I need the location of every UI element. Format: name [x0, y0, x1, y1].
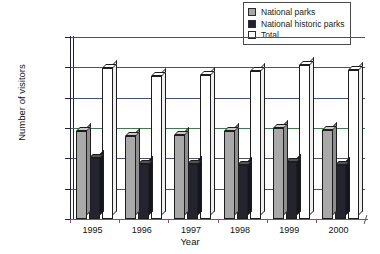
legend-label-national-parks: National parks — [261, 7, 315, 17]
x-axis-tick-label: 1999 — [269, 225, 309, 235]
bar-side — [162, 68, 166, 215]
x-axis-tick-label: 1998 — [220, 225, 260, 235]
bar-face — [174, 135, 185, 219]
bar-side — [198, 156, 202, 215]
y-axis-tick — [65, 67, 71, 68]
bar-face — [76, 131, 87, 219]
x-axis-tick-label: 1997 — [171, 225, 211, 235]
bar-face — [224, 131, 235, 219]
bar-side — [248, 157, 252, 215]
gridline — [70, 37, 365, 38]
bar-national-parks-2000 — [322, 126, 333, 219]
legend-label-national-historic-parks: National historic parks — [261, 19, 345, 29]
bar-side — [185, 127, 189, 215]
bar-face — [125, 136, 136, 219]
x-axis-title: Year — [0, 236, 380, 247]
bar-chart: National parks National historic parks T… — [0, 0, 380, 254]
bar-national-parks-1997 — [174, 131, 185, 219]
bar-side — [310, 57, 314, 215]
bar-side — [87, 123, 91, 215]
legend-item-national-historic-parks: National historic parks — [248, 18, 345, 29]
bar-side — [100, 150, 104, 215]
bar-side — [136, 128, 140, 215]
bar-side — [235, 123, 239, 215]
bar-side — [284, 120, 288, 215]
bar-side — [149, 156, 153, 215]
bar-national-parks-1996 — [125, 132, 136, 219]
y-axis-tick — [65, 98, 71, 99]
x-axis-tick — [70, 219, 71, 223]
x-axis-tick-label: 2000 — [318, 225, 358, 235]
x-axis-tick-label: 1995 — [73, 225, 113, 235]
bar-side — [211, 67, 215, 215]
bar-national-parks-1998 — [224, 127, 235, 219]
bar-face — [322, 130, 333, 219]
x-axis-tick-label: 1996 — [122, 225, 162, 235]
bar-side — [297, 154, 301, 215]
bar-side — [261, 63, 265, 215]
plot-area: 199519961997199819992000 — [70, 37, 365, 219]
y-axis-tick — [65, 189, 71, 190]
x-axis-tick — [168, 219, 169, 223]
legend-item-national-parks: National parks — [248, 7, 345, 18]
x-axis-tick — [267, 219, 268, 223]
bar-national-parks-1995 — [76, 127, 87, 219]
bar-side — [346, 157, 350, 215]
y-axis-title: Number of visitors — [16, 43, 27, 163]
x-axis-tick — [316, 219, 317, 223]
y-axis-tick — [65, 158, 71, 159]
legend-swatch-national-historic-parks — [248, 20, 256, 28]
bar-side — [359, 62, 363, 215]
bar-side — [113, 60, 117, 215]
bar-face — [273, 128, 284, 219]
x-axis-tick — [119, 219, 120, 223]
legend-swatch-national-parks — [248, 8, 256, 16]
x-axis-tick — [218, 219, 219, 223]
y-axis-tick — [65, 37, 71, 38]
bar-national-parks-1999 — [273, 124, 284, 219]
y-axis-tick — [65, 128, 71, 129]
bar-side — [333, 122, 337, 215]
